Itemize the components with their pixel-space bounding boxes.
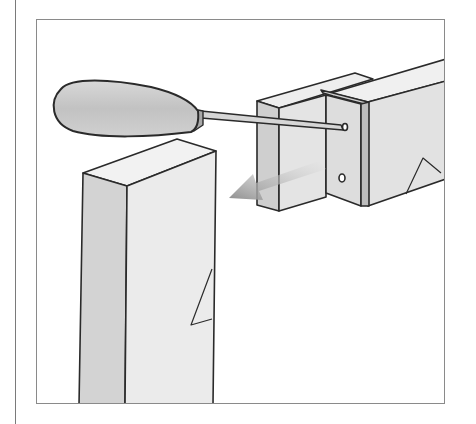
page-margin-rule (15, 0, 16, 424)
assembly-illustration (37, 20, 445, 404)
screw-hole-bottom (339, 174, 345, 182)
illustration-frame (36, 19, 445, 404)
vertical-post (79, 139, 216, 404)
corner-bracket (321, 90, 369, 206)
